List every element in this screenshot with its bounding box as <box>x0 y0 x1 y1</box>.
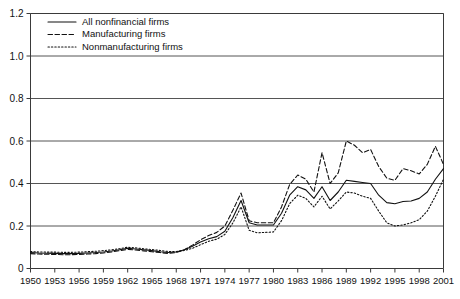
x-tick-label-11: 1983 <box>287 275 308 286</box>
line-chart: 00.20.40.60.81.01.2 19501953195619591962… <box>0 0 460 299</box>
x-tick-label-7: 1971 <box>190 275 211 286</box>
x-tick-label-1: 1953 <box>44 275 65 286</box>
y-tick-label-6: 1.2 <box>10 8 24 19</box>
x-tick-label-0: 1950 <box>20 275 41 286</box>
data-series <box>31 141 444 255</box>
y-tick-label-2: 0.4 <box>10 178 24 189</box>
x-tick-label-8: 1974 <box>214 275 235 286</box>
x-tick-label-14: 1992 <box>360 275 381 286</box>
x-axis-ticks: 1950195319561959196219651968197119741977… <box>20 269 454 286</box>
legend-label-2: Nonmanufacturing firms <box>82 41 183 52</box>
x-tick-label-9: 1977 <box>239 275 260 286</box>
y-tick-label-4: 0.8 <box>10 93 24 104</box>
y-tick-label-0: 0 <box>18 263 24 274</box>
x-tick-label-12: 1986 <box>311 275 332 286</box>
x-tick-label-6: 1968 <box>166 275 187 286</box>
x-tick-label-17: 2001 <box>433 275 454 286</box>
y-tick-label-5: 1.0 <box>10 51 24 62</box>
x-tick-label-4: 1962 <box>117 275 138 286</box>
x-tick-label-10: 1980 <box>263 275 284 286</box>
series-line-0 <box>31 169 444 254</box>
x-tick-label-3: 1959 <box>93 275 114 286</box>
x-tick-label-2: 1956 <box>69 275 90 286</box>
y-axis-ticks: 00.20.40.60.81.01.2 <box>10 8 31 274</box>
legend-label-1: Manufacturing firms <box>82 28 166 39</box>
x-tick-label-13: 1989 <box>336 275 357 286</box>
x-tick-label-16: 1998 <box>409 275 430 286</box>
x-tick-label-15: 1995 <box>384 275 405 286</box>
y-tick-label-3: 0.6 <box>10 136 24 147</box>
chart-legend: All nonfinancial firmsManufacturing firm… <box>48 16 183 52</box>
series-line-2 <box>31 179 444 252</box>
legend-label-0: All nonfinancial firms <box>82 16 169 27</box>
x-tick-label-5: 1965 <box>141 275 162 286</box>
chart-container: 00.20.40.60.81.01.2 19501953195619591962… <box>0 0 460 299</box>
y-tick-label-1: 0.2 <box>10 221 24 232</box>
